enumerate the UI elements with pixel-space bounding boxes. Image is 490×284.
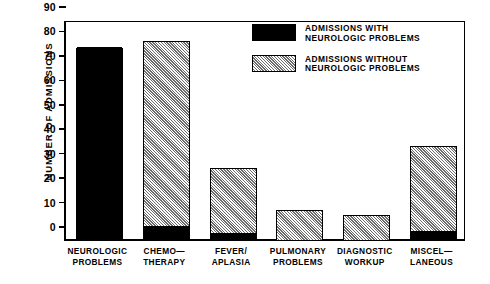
- y-axis-tick-label: 70: [36, 50, 56, 62]
- y-axis-tick: 70: [36, 50, 66, 62]
- legend-item: ADMISSIONS WITH NEUROLOGIC PROBLEMS: [252, 24, 420, 44]
- bar-segment-with-neurologic-problems: [77, 47, 122, 238]
- y-axis-tick-mark: [59, 153, 66, 155]
- y-axis-tick: 40: [36, 123, 66, 135]
- y-axis-tick: 0: [36, 221, 66, 233]
- y-axis-tick-mark: [59, 6, 66, 8]
- y-axis-tick-label: 20: [36, 172, 56, 184]
- y-axis-tick: 80: [36, 25, 66, 37]
- y-axis-tick-label: 30: [36, 148, 56, 160]
- bar-segment-without-neurologic-problems: [411, 147, 456, 233]
- bar-slot: [210, 19, 257, 239]
- y-axis-tick-label: 40: [36, 123, 56, 135]
- bar[interactable]: [410, 146, 457, 239]
- y-axis-tick-label: 0: [36, 221, 56, 233]
- bar-segment-with-neurologic-problems: [144, 226, 189, 238]
- y-axis-tick-mark: [59, 104, 66, 106]
- bar-segment-without-neurologic-problems: [277, 211, 322, 240]
- x-axis-label: CHEMO— THERAPY: [131, 246, 198, 267]
- bar-chart-figure: NUMBER OF ADMISSIONS 0102030405060708090…: [0, 0, 490, 284]
- bar-segment-without-neurologic-problems: [144, 42, 189, 228]
- x-axis-label: PULMONARY PROBLEMS: [265, 246, 332, 267]
- y-axis-tick-label: 50: [36, 99, 56, 111]
- bar[interactable]: [210, 168, 257, 239]
- bar-slot: [76, 19, 123, 239]
- y-axis-tick-mark: [59, 226, 66, 228]
- y-axis-tick-label: 10: [36, 197, 56, 209]
- bar-segment-without-neurologic-problems: [344, 216, 389, 240]
- legend-swatch-solid-black: [252, 24, 296, 41]
- y-axis-tick-label: 80: [36, 25, 56, 37]
- x-axis-label: NEUROLOGIC PROBLEMS: [64, 246, 131, 267]
- y-axis-tick: 90: [36, 1, 66, 13]
- legend-label: ADMISSIONS WITH NEUROLOGIC PROBLEMS: [305, 24, 420, 44]
- x-axis-label: MISCEL— LANEOUS: [398, 246, 465, 267]
- bar[interactable]: [143, 41, 190, 239]
- y-axis-tick-mark: [59, 31, 66, 33]
- bar-segment-with-neurologic-problems: [211, 233, 256, 238]
- y-axis-tick-mark: [59, 80, 66, 82]
- bar-segment-without-neurologic-problems: [211, 169, 256, 235]
- y-axis-tick-mark: [59, 202, 66, 204]
- x-axis-label: DIAGNOSTIC WORKUP: [331, 246, 398, 267]
- bar-segment-with-neurologic-problems: [411, 231, 456, 238]
- y-axis-tick-label: 60: [36, 74, 56, 86]
- y-axis-tick: 50: [36, 99, 66, 111]
- x-axis-label: FEVER/ APLASIA: [198, 246, 265, 267]
- y-axis-tick: 30: [36, 148, 66, 160]
- chart-legend: ADMISSIONS WITH NEUROLOGIC PROBLEMSADMIS…: [252, 24, 420, 85]
- y-axis-tick: 10: [36, 197, 66, 209]
- y-axis-tick-label: 90: [36, 1, 56, 13]
- y-axis-tick-mark: [59, 128, 66, 130]
- legend-label: ADMISSIONS WITHOUT NEUROLOGIC PROBLEMS: [305, 55, 420, 75]
- y-axis-tick-mark: [59, 55, 66, 57]
- bar[interactable]: [343, 215, 390, 239]
- bar[interactable]: [76, 48, 123, 239]
- legend-item: ADMISSIONS WITHOUT NEUROLOGIC PROBLEMS: [252, 55, 420, 75]
- bar[interactable]: [276, 210, 323, 239]
- legend-swatch-hatched: [252, 55, 296, 72]
- y-axis-tick: 20: [36, 172, 66, 184]
- bar-slot: [143, 19, 190, 239]
- y-axis-tick-mark: [59, 177, 66, 179]
- y-axis-tick: 60: [36, 74, 66, 86]
